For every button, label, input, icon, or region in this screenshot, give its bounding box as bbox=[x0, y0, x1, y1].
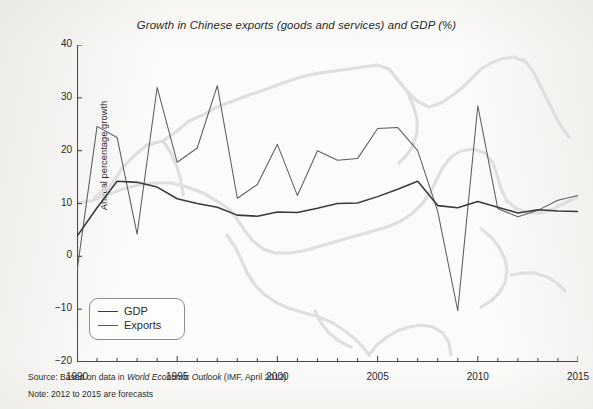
series-line-exports bbox=[77, 86, 578, 311]
source-publication: World Economic Outlook bbox=[127, 372, 222, 382]
legend-swatch-gdp-icon bbox=[98, 311, 118, 312]
chart-figure: Growth in Chinese exports (goods and ser… bbox=[0, 0, 593, 409]
chart-legend: GDP Exports bbox=[89, 298, 185, 340]
legend-label-gdp: GDP bbox=[124, 305, 148, 317]
legend-label-exports: Exports bbox=[124, 319, 161, 331]
legend-swatch-exports-icon bbox=[98, 325, 118, 326]
y-tick-label: −20 bbox=[32, 356, 72, 366]
source-note: Source: Based on data in World Economic … bbox=[28, 372, 286, 382]
y-tick-label: −10 bbox=[32, 303, 72, 313]
forecast-note: Note: 2012 to 2015 are forecasts bbox=[28, 389, 153, 399]
y-tick-label: 10 bbox=[32, 198, 72, 208]
y-tick-label: 30 bbox=[32, 92, 72, 102]
legend-item-gdp: GDP bbox=[98, 305, 148, 317]
source-prefix: Source: Based on data in bbox=[28, 372, 127, 382]
y-tick-label: 20 bbox=[32, 145, 72, 155]
y-tick-label: 40 bbox=[32, 39, 72, 49]
source-suffix: (IMF, April 2012) bbox=[221, 372, 286, 382]
x-tick-label: 2010 bbox=[456, 371, 500, 382]
y-tick-label: 0 bbox=[32, 250, 72, 260]
legend-item-exports: Exports bbox=[98, 319, 161, 331]
chart-title: Growth in Chinese exports (goods and ser… bbox=[0, 19, 593, 31]
x-tick-label: 2005 bbox=[356, 371, 400, 382]
x-tick-label: 2015 bbox=[556, 371, 593, 382]
